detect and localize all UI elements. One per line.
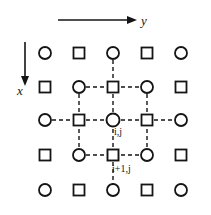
grid-row <box>40 81 187 93</box>
x-axis-label: x <box>17 84 23 97</box>
center-node-label: i,j <box>114 127 122 137</box>
grid-node-square <box>108 82 119 93</box>
grid-node-circle <box>39 114 51 126</box>
grid-node-square <box>176 150 187 161</box>
grid-node-circle <box>175 114 187 126</box>
grid-diagram-canvas <box>0 0 211 215</box>
grid-row <box>39 184 187 196</box>
grid-node-below-square <box>108 150 119 161</box>
grid-node-square <box>74 115 85 126</box>
grid-node-square <box>142 185 153 196</box>
staggered-grid-figure: y x i,j i+1,j <box>0 0 211 215</box>
grid-node-square <box>40 150 51 161</box>
grid-node-circle <box>107 184 119 196</box>
grid-node-circle <box>175 184 187 196</box>
grid-node-circle <box>175 47 187 59</box>
grid-node-circle <box>141 149 153 161</box>
grid-node-circle <box>39 47 51 59</box>
grid-node-square <box>74 48 85 59</box>
grid-node-square <box>142 48 153 59</box>
grid-node-square <box>176 82 187 93</box>
grid-node-center-circle <box>107 114 120 127</box>
below-node-label: i+1,j <box>112 164 131 174</box>
grid-node-square <box>40 82 51 93</box>
grid-node-circle <box>73 81 85 93</box>
grid-node-circle <box>141 81 153 93</box>
grid-node-circle <box>73 149 85 161</box>
y-axis-label: y <box>141 14 147 27</box>
grid-node-square <box>74 185 85 196</box>
grid-row <box>40 149 187 161</box>
grid-node-square <box>142 115 153 126</box>
grid-node-circle <box>39 184 51 196</box>
y-axis-arrow-head <box>127 16 137 24</box>
grid-row <box>39 47 187 59</box>
grid-node-circle <box>107 47 119 59</box>
